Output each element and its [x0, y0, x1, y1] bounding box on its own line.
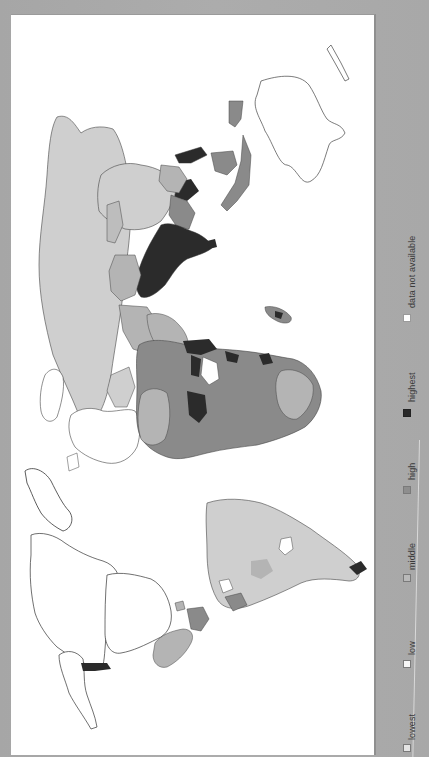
legend-label-high: high	[407, 463, 417, 480]
region-png	[229, 101, 243, 127]
region-north-africa-light	[138, 389, 170, 445]
legend-swatch-highest	[403, 409, 411, 417]
map-legend: lowest low middle high highest data not …	[396, 220, 424, 757]
region-south-america	[206, 499, 359, 608]
region-central-asia	[109, 255, 141, 301]
region-indochina	[169, 195, 195, 229]
region-borneo	[211, 151, 237, 175]
region-new-zealand	[327, 45, 349, 81]
region-europe	[69, 408, 140, 463]
legend-label-highest: highest	[407, 372, 417, 402]
region-india	[136, 224, 213, 298]
region-philippines	[175, 147, 207, 163]
legend-label-middle: middle	[407, 543, 417, 570]
legend-swatch-middle	[403, 574, 411, 582]
legend-swatch-na	[403, 314, 411, 322]
legend-label-na: data not available	[407, 236, 417, 308]
world-map	[11, 14, 376, 755]
page-background: lowest low middle high highest data not …	[0, 0, 429, 757]
legend-swatch-low	[403, 660, 411, 668]
legend-swatch-lowest	[403, 744, 411, 752]
region-central-america	[187, 607, 209, 631]
region-australia	[255, 76, 345, 182]
region-greenland	[25, 469, 72, 531]
region-caribbean	[175, 601, 185, 611]
region-aleutians	[81, 663, 111, 671]
legend-label-low: low	[407, 641, 417, 655]
region-scandinavia	[40, 369, 63, 421]
region-uk	[67, 453, 79, 471]
world-map-svg	[11, 15, 376, 755]
legend-label-lowest: lowest	[407, 714, 417, 740]
legend-swatch-high	[403, 486, 411, 494]
